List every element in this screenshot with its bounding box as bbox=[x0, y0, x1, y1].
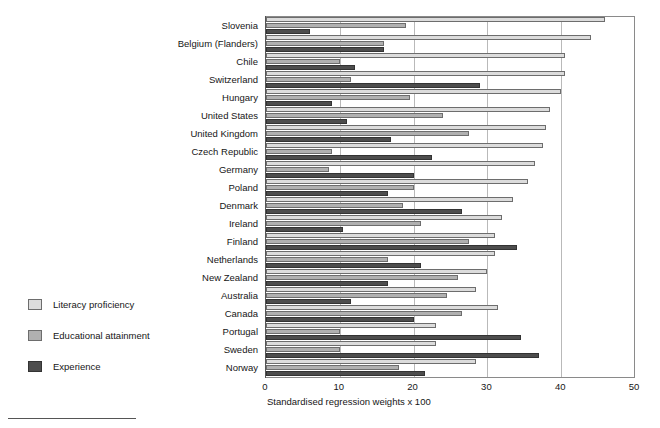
bar-edu bbox=[266, 347, 340, 352]
bar-edu bbox=[266, 149, 332, 154]
bar-edu bbox=[266, 77, 351, 82]
category-label: Slovenia bbox=[8, 21, 258, 31]
bar-lit bbox=[266, 323, 436, 328]
bar-group bbox=[266, 161, 635, 179]
bar-lit bbox=[266, 143, 543, 148]
bar-lit bbox=[266, 305, 498, 310]
category-label: Switzerland bbox=[8, 75, 258, 85]
bar-group bbox=[266, 35, 635, 53]
footer-divider bbox=[8, 418, 136, 419]
bar-group bbox=[266, 71, 635, 89]
bar-edu bbox=[266, 311, 462, 316]
bar-group bbox=[266, 89, 635, 107]
chart-legend: Literacy proficiencyEducational attainme… bbox=[28, 298, 243, 391]
bar-exp bbox=[266, 155, 432, 160]
bar-exp bbox=[266, 65, 355, 70]
bar-group bbox=[266, 323, 635, 341]
category-label: Ireland bbox=[8, 219, 258, 229]
bar-exp bbox=[266, 317, 414, 322]
x-tick-label: 10 bbox=[334, 381, 345, 393]
bar-group bbox=[266, 107, 635, 125]
bar-exp bbox=[266, 209, 462, 214]
category-label: United States bbox=[8, 111, 258, 121]
category-label: Poland bbox=[8, 183, 258, 193]
bar-edu bbox=[266, 203, 403, 208]
bar-exp bbox=[266, 191, 388, 196]
bar-edu bbox=[266, 293, 447, 298]
bar-lit bbox=[266, 89, 561, 94]
bar-group bbox=[266, 359, 635, 377]
bar-lit bbox=[266, 125, 546, 130]
legend-label: Experience bbox=[53, 361, 101, 372]
bar-group bbox=[266, 215, 635, 233]
bar-edu bbox=[266, 257, 388, 262]
bar-exp bbox=[266, 83, 480, 88]
bar-lit bbox=[266, 287, 476, 292]
bar-lit bbox=[266, 71, 565, 76]
bar-group bbox=[266, 179, 635, 197]
bar-edu bbox=[266, 185, 414, 190]
bar-edu bbox=[266, 329, 340, 334]
bar-exp bbox=[266, 245, 517, 250]
legend-swatch-exp-icon bbox=[28, 361, 42, 372]
bar-series-container bbox=[266, 17, 635, 377]
bar-exp bbox=[266, 227, 343, 232]
bar-lit bbox=[266, 269, 487, 274]
bar-edu bbox=[266, 239, 469, 244]
bar-edu bbox=[266, 131, 469, 136]
bar-exp bbox=[266, 281, 388, 286]
bar-lit bbox=[266, 251, 495, 256]
bar-lit bbox=[266, 233, 495, 238]
bar-exp bbox=[266, 101, 332, 106]
bar-lit bbox=[266, 17, 605, 22]
bar-exp bbox=[266, 263, 421, 268]
bar-lit bbox=[266, 215, 502, 220]
x-tick-label: 50 bbox=[629, 381, 640, 393]
bar-exp bbox=[266, 299, 351, 304]
bar-exp bbox=[266, 29, 310, 34]
bar-lit bbox=[266, 197, 513, 202]
bar-group bbox=[266, 269, 635, 287]
bar-group bbox=[266, 341, 635, 359]
bar-group bbox=[266, 125, 635, 143]
x-axis-title: Standardised regression weights x 100 bbox=[267, 396, 431, 407]
bar-lit bbox=[266, 359, 476, 364]
bar-group bbox=[266, 305, 635, 323]
category-label: Denmark bbox=[8, 201, 258, 211]
bar-group bbox=[266, 233, 635, 251]
bar-exp bbox=[266, 371, 425, 376]
bar-edu bbox=[266, 59, 340, 64]
bar-lit bbox=[266, 161, 535, 166]
bar-exp bbox=[266, 119, 347, 124]
bar-edu bbox=[266, 23, 406, 28]
bar-group bbox=[266, 287, 635, 305]
category-label: Finland bbox=[8, 237, 258, 247]
legend-label: Educational attainment bbox=[53, 330, 150, 341]
x-tick-label: 40 bbox=[555, 381, 566, 393]
bar-exp bbox=[266, 47, 384, 52]
bar-edu bbox=[266, 41, 384, 46]
category-label: Belgium (Flanders) bbox=[8, 39, 258, 49]
bar-group bbox=[266, 53, 635, 71]
bar-exp bbox=[266, 173, 414, 178]
bar-lit bbox=[266, 107, 550, 112]
category-label: Czech Republic bbox=[8, 147, 258, 157]
bar-lit bbox=[266, 53, 565, 58]
legend-item-exp[interactable]: Experience bbox=[28, 360, 243, 373]
bar-exp bbox=[266, 353, 539, 358]
bar-exp bbox=[266, 137, 391, 142]
legend-item-edu[interactable]: Educational attainment bbox=[28, 329, 243, 342]
category-label: New Zealand bbox=[8, 273, 258, 283]
bar-lit bbox=[266, 35, 591, 40]
x-tick-label: 20 bbox=[407, 381, 418, 393]
bar-edu bbox=[266, 221, 421, 226]
bar-group bbox=[266, 143, 635, 161]
bar-group bbox=[266, 17, 635, 35]
bar-edu bbox=[266, 365, 399, 370]
legend-item-lit[interactable]: Literacy proficiency bbox=[28, 298, 243, 311]
legend-label: Literacy proficiency bbox=[53, 299, 134, 310]
legend-swatch-edu-icon bbox=[28, 330, 42, 341]
bar-edu bbox=[266, 275, 458, 280]
legend-swatch-lit-icon bbox=[28, 299, 42, 310]
category-label: Hungary bbox=[8, 93, 258, 103]
